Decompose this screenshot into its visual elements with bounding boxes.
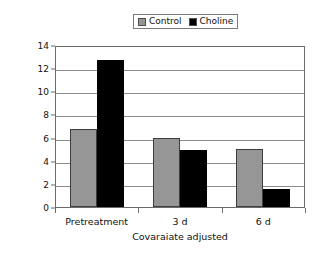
x-axis-tick-mark bbox=[55, 208, 56, 213]
y-axis-tick: 8 bbox=[43, 111, 55, 120]
legend-label-control: Control bbox=[149, 17, 182, 26]
x-axis-ticks: Pretreatment3 d6 d bbox=[55, 208, 305, 226]
bar-control-pretreatment bbox=[70, 129, 97, 207]
x-axis-tick-mark bbox=[138, 208, 139, 213]
y-axis-tick-label: 14 bbox=[38, 42, 49, 51]
y-axis-tick-label: 10 bbox=[38, 88, 49, 97]
y-axis-tick-label: 12 bbox=[38, 65, 49, 74]
y-axis-tick: 2 bbox=[43, 180, 55, 189]
y-axis-tick: 10 bbox=[38, 88, 55, 97]
legend-entry-control: Control bbox=[138, 17, 182, 26]
y-axis-tick-label: 2 bbox=[43, 180, 49, 189]
bar-group bbox=[139, 47, 222, 207]
y-axis-tick-label: 6 bbox=[43, 134, 49, 143]
x-axis-title: Covaraiate adjusted bbox=[55, 231, 305, 242]
y-axis-tick-label: 8 bbox=[43, 111, 49, 120]
x-axis-tick-mark bbox=[222, 208, 223, 213]
x-axis-tick-mark bbox=[305, 208, 306, 213]
x-axis-tick-label: 6 d bbox=[222, 208, 305, 226]
bar-control-6-d bbox=[236, 149, 263, 207]
plot-area bbox=[55, 46, 305, 208]
y-axis-tick-label: 0 bbox=[43, 204, 49, 213]
y-axis-tick: 14 bbox=[38, 42, 55, 51]
legend-label-choline: Choline bbox=[200, 17, 234, 26]
y-axis-tick: 4 bbox=[43, 157, 55, 166]
bar-chart: Control Choline Liver TAG, ug/ug DNA 024… bbox=[0, 0, 318, 255]
x-axis-tick-label: Pretreatment bbox=[55, 208, 138, 226]
bar-control-3-d bbox=[153, 138, 180, 207]
y-axis-tick: 6 bbox=[43, 134, 55, 143]
black-square-icon bbox=[189, 18, 197, 26]
bar-group bbox=[56, 47, 139, 207]
y-axis-tick: 12 bbox=[38, 65, 55, 74]
bar-choline-3-d bbox=[180, 150, 207, 207]
gray-square-icon bbox=[138, 18, 146, 26]
bar-groups bbox=[56, 47, 304, 207]
y-axis-tick: 0 bbox=[43, 204, 55, 213]
bar-choline-6-d bbox=[263, 189, 290, 207]
bar-group bbox=[221, 47, 304, 207]
chart-legend: Control Choline bbox=[133, 14, 238, 29]
y-axis-tick-label: 4 bbox=[43, 157, 49, 166]
x-axis-tick-label: 3 d bbox=[138, 208, 221, 226]
bar-choline-pretreatment bbox=[97, 60, 124, 207]
y-axis-ticks: 02468101214 bbox=[0, 46, 55, 208]
legend-entry-choline: Choline bbox=[189, 17, 234, 26]
